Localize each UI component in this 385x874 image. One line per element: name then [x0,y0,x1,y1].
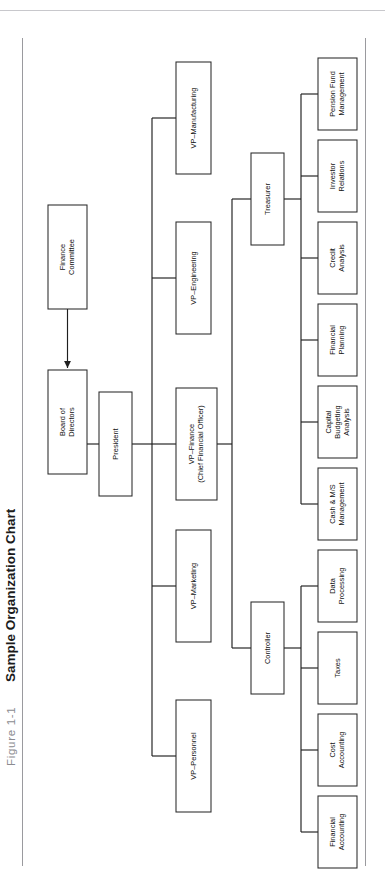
org-node-data-processing: DataProcessing [318,550,357,622]
org-node-pension-fund: Pension FundManagement [318,58,357,130]
org-node-finance-committee: FinanceCommittee [48,205,87,309]
org-node-label: Controller [262,631,271,664]
org-node-label: Board ofDirectors [58,407,76,437]
figure-page: Figure 1-1 Sample Organization Chart Fin… [0,0,385,874]
org-node-cost-accounting: CostAccounting [318,714,357,786]
org-node-financial-planning: FinancialPlanning [318,304,357,376]
org-node-vp-manufacturing: VP–Manufacturing [176,62,211,174]
org-node-board: Board ofDirectors [48,370,87,474]
org-node-capital-budgeting: CapitalBudgetingAnalysis [318,386,357,458]
org-node-label: VP–Marketing [188,563,197,609]
org-node-controller: Controller [251,602,284,694]
org-node-label: Taxes [332,658,341,678]
org-node-label: FinancialAccounting [328,814,346,851]
org-node-president: President [99,392,132,496]
org-node-cash-ms-management: Cash & M/SManagement [318,468,357,540]
org-node-label: Cash & M/SManagement [328,482,346,525]
org-chart-nodes: FinanceCommitteeBoard ofDirectorsPreside… [48,58,357,868]
org-node-vp-finance: VP–Finance(Chief Financial Officer) [176,388,217,500]
org-node-treasurer: Treasurer [251,153,284,245]
org-node-label: Pension FundManagement [328,71,346,117]
org-node-label: InvestorRelations [328,160,346,191]
org-node-label: Treasurer [262,183,271,215]
org-node-label: VP–Personnel [188,732,197,780]
org-chart-svg: FinanceCommitteeBoard ofDirectorsPreside… [0,0,385,874]
org-node-taxes: Taxes [318,632,357,704]
org-node-investor-relations: InvestorRelations [318,140,357,212]
org-node-label: President [110,428,119,459]
org-node-credit-analysis: CreditAnalysis [318,222,357,294]
org-node-label: VP–Manufacturing [188,88,197,149]
org-node-vp-personnel: VP–Personnel [176,700,211,812]
org-node-label: FinanceCommittee [58,239,76,275]
org-node-label: VP–Engineering [188,251,197,304]
org-node-vp-marketing: VP–Marketing [176,530,211,642]
org-node-label: FinancialPlanning [328,325,346,355]
org-node-financial-accounting: FinancialAccounting [318,796,357,868]
org-node-vp-engineering: VP–Engineering [176,222,211,334]
